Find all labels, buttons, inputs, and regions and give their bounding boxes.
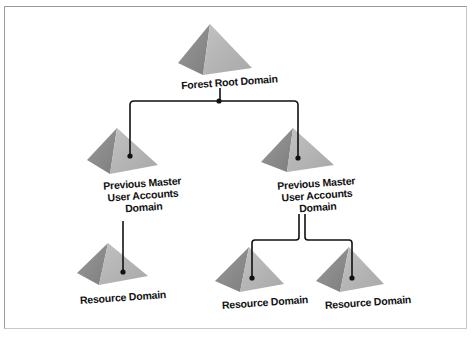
pyramid-icon-root [178, 24, 252, 75]
pyramid-icon-rd1 [77, 243, 148, 285]
node-label-pm2: Previous Master User Accounts Domain [271, 174, 363, 216]
node-label-pm1: Previous Master User Accounts Domain [97, 174, 189, 216]
pyramid-icon-pm1 [87, 128, 158, 174]
pyramid-icon-rd3 [316, 247, 384, 292]
tree-diagram [0, 0, 474, 338]
pyramid-icon-rd2 [215, 247, 284, 292]
